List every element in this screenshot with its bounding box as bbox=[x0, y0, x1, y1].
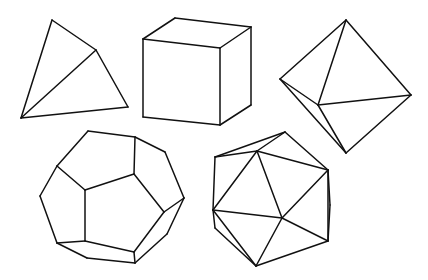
dodecahedron-edge bbox=[85, 241, 134, 252]
dodecahedron-edge bbox=[165, 152, 184, 198]
icosahedron-edge bbox=[257, 151, 282, 218]
octahedron-edge bbox=[346, 20, 411, 95]
icosahedron-edge bbox=[282, 218, 328, 241]
icosahedron-edge bbox=[257, 132, 285, 151]
tetrahedron-edge bbox=[96, 50, 128, 107]
dodecahedron-edge bbox=[134, 252, 135, 263]
icosahedron-edge bbox=[215, 228, 256, 266]
dodecahedron-edge bbox=[57, 131, 88, 166]
dodecahedron-edge bbox=[57, 241, 85, 243]
dodecahedron-edge bbox=[57, 166, 85, 190]
octahedron-edge bbox=[280, 79, 346, 153]
octahedron-edge bbox=[318, 95, 411, 105]
icosahedron-edge bbox=[213, 157, 215, 210]
icosahedron-edge bbox=[213, 210, 282, 218]
octahedron-shape bbox=[280, 20, 411, 153]
tetrahedron-shape bbox=[21, 20, 128, 118]
cube-edge bbox=[220, 27, 251, 48]
icosahedron-edge bbox=[213, 210, 256, 266]
cube-edge bbox=[143, 39, 220, 48]
cube-edge bbox=[143, 18, 175, 39]
tetrahedron-edge bbox=[52, 20, 96, 50]
icosahedron-shape bbox=[213, 132, 330, 266]
dodecahedron-edge bbox=[134, 212, 164, 252]
octahedron-edge bbox=[318, 105, 346, 153]
dodecahedron-edge bbox=[88, 131, 135, 137]
dodecahedron-edge bbox=[134, 174, 164, 212]
dodecahedron-edge bbox=[57, 243, 87, 258]
cube-edge bbox=[220, 105, 251, 125]
cube-edge bbox=[143, 117, 220, 125]
icosahedron-edge bbox=[282, 170, 328, 218]
icosahedron-edge bbox=[213, 151, 257, 210]
dodecahedron-edge bbox=[85, 174, 134, 190]
dodecahedron-edge bbox=[135, 234, 167, 263]
dodecahedron-edge bbox=[87, 258, 135, 263]
dodecahedron-edge bbox=[135, 137, 165, 152]
cube-edge bbox=[175, 18, 251, 27]
dodecahedron-edge bbox=[40, 166, 57, 196]
platonic-solids-diagram bbox=[0, 0, 428, 280]
dodecahedron-edge bbox=[40, 196, 57, 243]
dodecahedron-shape bbox=[40, 131, 184, 263]
icosahedron-edge bbox=[215, 132, 285, 157]
tetrahedron-edge bbox=[21, 107, 128, 118]
dodecahedron-edge bbox=[134, 137, 135, 174]
octahedron-edge bbox=[346, 95, 411, 153]
cube-shape bbox=[143, 18, 251, 125]
